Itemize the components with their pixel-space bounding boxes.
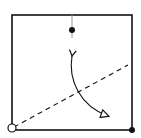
dashed-diagonal-line — [14, 65, 128, 127]
top-point-dot — [69, 27, 75, 33]
curved-rotation-arrow — [71, 56, 108, 116]
corner-filled-dot — [129, 127, 135, 133]
rotation-diagram — [0, 0, 141, 138]
origin-open-circle — [8, 124, 16, 132]
